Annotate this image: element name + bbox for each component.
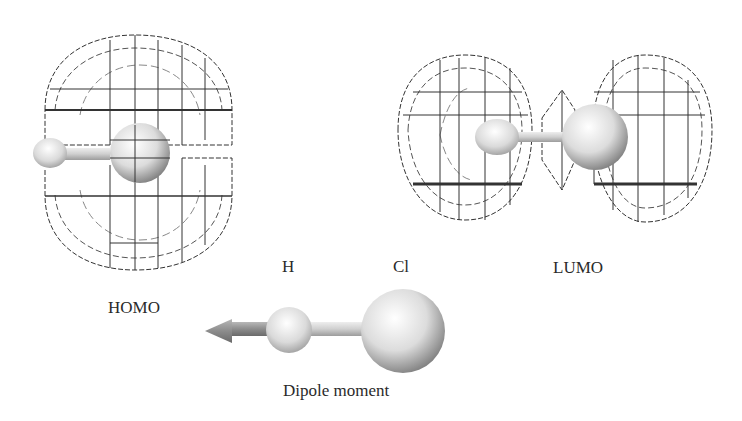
homo-h-atom [33,138,67,168]
lumo-label: LUMO [553,258,603,278]
atom-label-h: H [282,257,294,277]
orbital-diagram [0,0,742,421]
homo-cl-atom [110,123,170,183]
dipole-cl-atom [361,289,445,373]
homo-label: HOMO [108,298,160,318]
atom-label-cl: Cl [393,257,409,277]
dipole-molecule [205,289,445,373]
dipole-h-atom [266,307,312,353]
lumo-cl-atom [562,104,628,170]
dipole-arrow-shaft [232,322,272,336]
dipole-moment-label: Dipole moment [283,381,389,401]
homo-orbital [33,35,232,270]
dipole-arrow-head [205,319,232,343]
lumo-orbital [398,55,712,222]
lumo-h-atom [475,119,519,155]
